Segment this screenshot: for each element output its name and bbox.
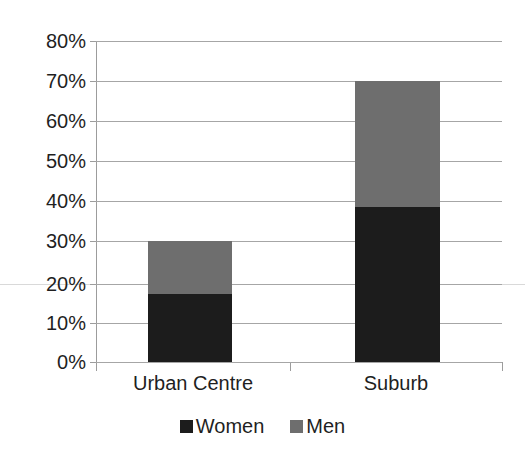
gridline-80 bbox=[96, 41, 502, 42]
gridline-60 bbox=[96, 121, 502, 122]
bar-suburb-women bbox=[355, 207, 440, 362]
y-axis-label-40: 40% bbox=[0, 191, 86, 211]
gridline-70 bbox=[96, 81, 502, 82]
x-axis-label-suburb: Suburb bbox=[290, 371, 502, 395]
stacked-bar-chart: 80% 70% 60% 50% 40% 30% 20% 10% 0% Ur bbox=[0, 0, 525, 463]
y-axis-label-50: 50% bbox=[0, 151, 86, 171]
chart-legend: Women Men bbox=[0, 415, 525, 437]
plot-area bbox=[96, 41, 502, 362]
y-axis-label-30: 30% bbox=[0, 231, 86, 251]
y-axis-label-20: 20% bbox=[0, 274, 86, 294]
y-axis-label-10: 10% bbox=[0, 313, 86, 333]
legend-label-women: Women bbox=[196, 415, 265, 437]
legend-swatch-women-square-icon bbox=[180, 420, 193, 433]
legend-swatch-men-square-icon bbox=[290, 420, 303, 433]
y-axis-label-70: 70% bbox=[0, 71, 86, 91]
gridline-50 bbox=[96, 161, 502, 162]
x-tick-start bbox=[96, 363, 97, 371]
bar-urban-centre-women bbox=[148, 294, 232, 362]
bar-suburb-men bbox=[355, 81, 440, 207]
y-axis-label-0: 0% bbox=[0, 352, 86, 372]
legend-item-men[interactable]: Men bbox=[290, 415, 345, 437]
y-axis-label-60: 60% bbox=[0, 111, 86, 131]
gridline-0 bbox=[96, 362, 502, 363]
legend-label-men: Men bbox=[306, 415, 345, 437]
bar-urban-centre-men bbox=[148, 241, 232, 294]
legend-item-women[interactable]: Women bbox=[180, 415, 265, 437]
x-tick-end bbox=[502, 363, 503, 371]
y-axis-label-80: 80% bbox=[0, 31, 86, 51]
gridline-40 bbox=[96, 201, 502, 202]
x-axis-label-urban-centre: Urban Centre bbox=[96, 371, 290, 395]
x-tick-divider bbox=[290, 363, 291, 371]
